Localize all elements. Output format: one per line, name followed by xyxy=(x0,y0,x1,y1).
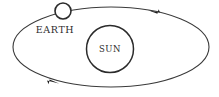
orbit-diagram-canvas: SUN EARTH xyxy=(0,0,219,97)
sun-label: SUN xyxy=(99,44,121,54)
orbit-diagram: SUN EARTH xyxy=(0,0,219,97)
earth-label: EARTH xyxy=(36,24,74,35)
earth-circle xyxy=(55,3,71,19)
